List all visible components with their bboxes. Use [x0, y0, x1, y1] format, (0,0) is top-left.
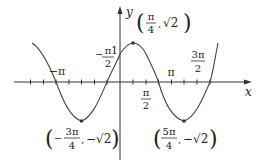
svg-text:π: π	[148, 11, 155, 22]
svg-text:2: 2	[143, 100, 149, 111]
svg-text:4: 4	[166, 140, 172, 151]
annotation-max: ( π 4 , √2 )	[136, 10, 192, 35]
x-tick-label-pi-half: π 2	[141, 87, 151, 111]
x-axis-arrow-icon	[244, 80, 252, 85]
svg-text:−√2: −√2	[183, 132, 208, 146]
x-tick-label-neg-pi: −π	[49, 65, 65, 78]
min-point-left	[80, 119, 84, 123]
plot-svg: y x 1 −π − π 2 π 2 π 3π 2 ( π 4 , √2 ) (…	[0, 0, 256, 167]
svg-text:,: ,	[158, 18, 161, 29]
svg-text:−: −	[95, 49, 103, 60]
svg-text:π: π	[143, 87, 150, 98]
svg-text:2: 2	[105, 58, 111, 69]
annotation-min-right: ( 5π 4 , −√2 )	[153, 126, 218, 151]
max-point	[131, 41, 135, 45]
annotation-min-left: ( − 3π 4 , −√2 )	[45, 126, 120, 151]
x-tick-label-three-pi-half: 3π 2	[191, 49, 205, 74]
svg-text:−√2: −√2	[86, 132, 111, 146]
svg-text:): )	[209, 126, 218, 151]
svg-text:4: 4	[69, 140, 75, 151]
svg-text:): )	[111, 126, 120, 151]
min-point-right	[182, 119, 186, 123]
y-axis-arrow-icon	[118, 6, 123, 14]
svg-text:5π: 5π	[163, 126, 176, 137]
svg-text:√2: √2	[163, 16, 178, 30]
function-graph: y x 1 −π − π 2 π 2 π 3π 2 ( π 4 , √2 ) (…	[0, 0, 256, 167]
svg-text:,: ,	[178, 134, 181, 145]
svg-text:(: (	[45, 126, 54, 151]
y-tick-label-1: 1	[111, 44, 118, 57]
svg-text:): )	[183, 10, 192, 35]
svg-text:3π: 3π	[192, 49, 205, 60]
svg-text:4: 4	[148, 24, 154, 35]
x-tick-label-neg-pi-half: − π 2	[95, 45, 114, 69]
svg-text:−: −	[54, 133, 62, 144]
svg-text:π: π	[105, 45, 112, 56]
svg-text:(: (	[136, 10, 145, 35]
svg-text:2: 2	[195, 63, 201, 74]
x-tick-label-pi: π	[167, 66, 174, 79]
svg-text:(: (	[153, 126, 162, 151]
svg-text:3π: 3π	[66, 126, 79, 137]
y-axis-label: y	[125, 5, 133, 19]
x-axis-label: x	[245, 85, 252, 99]
svg-text:,: ,	[81, 134, 84, 145]
